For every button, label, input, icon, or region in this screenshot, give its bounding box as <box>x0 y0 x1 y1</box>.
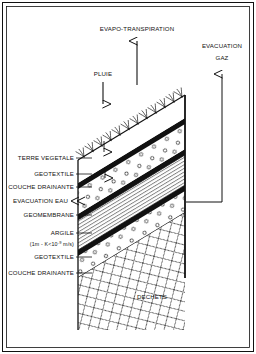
evapotranspiration-label: EVAPO-TRANSPIRATION <box>100 25 174 32</box>
dechets-label: DECHETS <box>137 293 167 300</box>
callout-geotextile-upper: GEOTEXTILE <box>34 170 74 177</box>
evacuation-gaz-label-line1: EVACUATION <box>202 42 242 49</box>
argile-spec-prefix: (1m - K<10 <box>30 241 58 247</box>
callout-terre-vegetale: TERRE VEGETALE <box>18 154 74 161</box>
callout-geomembrane: GEOMEMBRANE <box>24 211 74 218</box>
callout-evacuation-eau: EVACUATION EAU <box>13 197 68 204</box>
landfill-cross-section-figure: EVAPO-TRANSPIRATION PLUIE EVACUATION GAZ… <box>0 0 256 354</box>
evacuation-gaz-label-line2: GAZ <box>216 54 229 61</box>
callout-argile: ARGILE <box>51 229 74 236</box>
argile-spec-suffix: m/s) <box>61 241 74 247</box>
callout-geotextile-lower: GEOTEXTILE <box>34 253 74 260</box>
pluie-label: PLUIE <box>94 70 112 77</box>
diagram-canvas: EVAPO-TRANSPIRATION PLUIE EVACUATION GAZ… <box>0 0 256 354</box>
gas-evacuation-pipe <box>186 74 222 202</box>
callout-couche-drainante-lower: COUCHE DRAINANTE <box>8 269 74 276</box>
callout-argile-spec: (1m - K<10-9 m/s) <box>30 240 74 247</box>
callout-couche-drainante-upper: COUCHE DRAINANTE <box>8 183 74 190</box>
